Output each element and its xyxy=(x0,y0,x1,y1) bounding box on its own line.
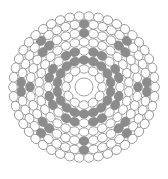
shaded-fiber xyxy=(134,82,143,92)
open-fiber xyxy=(26,72,36,83)
open-fiber xyxy=(69,29,80,39)
open-fiber xyxy=(74,153,85,162)
open-fiber xyxy=(79,38,89,46)
open-fiber xyxy=(79,119,89,127)
core-circle xyxy=(75,78,93,96)
packing-diagram xyxy=(0,0,168,179)
shaded-fiber xyxy=(79,29,89,38)
open-fiber xyxy=(84,12,95,21)
shaded-fiber xyxy=(79,20,89,29)
open-fiber xyxy=(124,86,133,97)
open-fiber xyxy=(44,82,52,92)
shaded-fiber xyxy=(79,137,89,146)
open-fiber xyxy=(151,82,160,92)
open-fiber xyxy=(132,91,142,102)
open-fiber xyxy=(79,47,89,55)
open-fiber xyxy=(88,135,99,145)
shaded-fiber xyxy=(79,56,89,64)
shaded-fiber xyxy=(26,82,35,92)
open-fiber xyxy=(132,72,142,83)
open-fiber xyxy=(98,82,106,92)
open-fiber xyxy=(69,135,80,145)
open-fiber xyxy=(79,101,89,109)
open-fiber xyxy=(26,91,36,102)
open-fiber xyxy=(84,153,95,162)
open-fiber xyxy=(62,82,70,92)
open-fiber xyxy=(88,29,99,39)
open-fiber xyxy=(79,65,89,73)
open-fiber xyxy=(124,77,133,88)
shaded-fiber xyxy=(79,146,89,155)
open-fiber xyxy=(35,86,44,97)
cross-section-svg xyxy=(0,0,168,179)
shaded-fiber xyxy=(79,110,89,118)
open-fiber xyxy=(35,77,44,88)
open-fiber xyxy=(74,12,85,21)
open-fiber xyxy=(79,128,89,136)
open-fiber xyxy=(116,82,124,92)
open-fiber xyxy=(9,82,18,92)
